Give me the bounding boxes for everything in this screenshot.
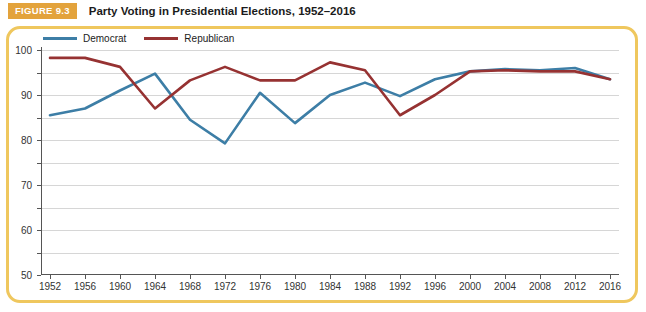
x-tick-label: 1992 [389, 281, 411, 292]
x-tick-label: 1968 [179, 281, 201, 292]
series-line-republican [50, 58, 610, 115]
x-tick-label: 1956 [74, 281, 96, 292]
figure-number-badge: FIGURE 9.3 [8, 3, 77, 19]
x-tick-mark [85, 275, 86, 279]
chart-legend: Democrat Republican [43, 33, 234, 44]
x-tick-label: 1972 [214, 281, 236, 292]
x-tick-mark [330, 275, 331, 279]
figure-container: FIGURE 9.3 Party Voting in Presidential … [0, 0, 646, 312]
x-tick-mark [295, 275, 296, 279]
x-tick-mark [50, 275, 51, 279]
legend-item-republican: Republican [144, 33, 234, 44]
x-tick-label: 2004 [494, 281, 516, 292]
x-tick-label: 1964 [144, 281, 166, 292]
x-tick-mark [225, 275, 226, 279]
figure-title: Party Voting in Presidential Elections, … [89, 5, 356, 17]
x-tick-mark [365, 275, 366, 279]
x-tick-mark [540, 275, 541, 279]
y-tick-label: 100 [15, 45, 32, 56]
y-tick-label: 60 [21, 225, 32, 236]
x-tick-label: 1976 [249, 281, 271, 292]
legend-swatch-republican [144, 37, 178, 40]
legend-swatch-democrat [43, 37, 77, 40]
x-tick-mark [575, 275, 576, 279]
legend-label-democrat: Democrat [83, 33, 126, 44]
x-tick-label: 1980 [284, 281, 306, 292]
x-tick-label: 2016 [599, 281, 621, 292]
series-lines [41, 50, 619, 275]
x-tick-mark [155, 275, 156, 279]
y-tick-label: 80 [21, 135, 32, 146]
y-tick-label: 90 [21, 90, 32, 101]
x-tick-mark [260, 275, 261, 279]
x-tick-label: 2008 [529, 281, 551, 292]
y-tick-mark: 0 [37, 275, 41, 276]
y-tick-label: 50 [21, 270, 32, 281]
legend-label-republican: Republican [184, 33, 234, 44]
x-tick-label: 1960 [109, 281, 131, 292]
figure-header: FIGURE 9.3 Party Voting in Presidential … [0, 0, 646, 22]
x-tick-label: 1988 [354, 281, 376, 292]
x-tick-mark [190, 275, 191, 279]
x-tick-label: 2000 [459, 281, 481, 292]
x-tick-label: 1996 [424, 281, 446, 292]
chart-panel: Democrat Republican 01020304050607080901… [6, 26, 638, 303]
series-line-democrat [50, 68, 610, 143]
x-tick-mark [470, 275, 471, 279]
x-tick-label: 1984 [319, 281, 341, 292]
x-tick-mark [400, 275, 401, 279]
x-tick-label: 2012 [564, 281, 586, 292]
plot-area: 0102030405060708090100 19521956196019641… [41, 50, 619, 275]
x-tick-label: 1952 [39, 281, 61, 292]
x-tick-mark [435, 275, 436, 279]
x-tick-mark [120, 275, 121, 279]
legend-item-democrat: Democrat [43, 33, 126, 44]
x-tick-mark [505, 275, 506, 279]
x-tick-mark [610, 275, 611, 279]
y-tick-label: 70 [21, 180, 32, 191]
